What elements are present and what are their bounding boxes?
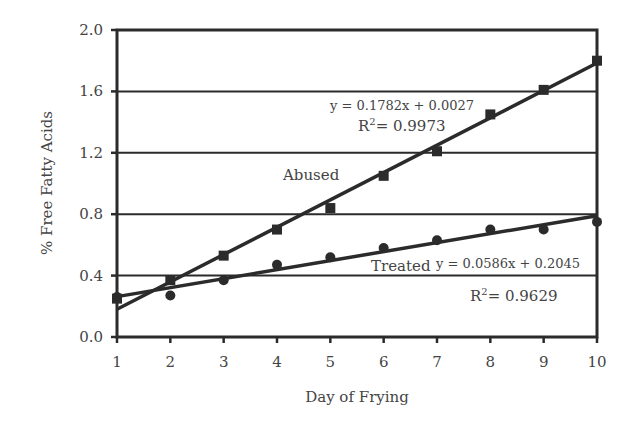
x-tick-label: 1 xyxy=(112,353,122,371)
x-tick-label: 4 xyxy=(272,353,282,371)
abused-equation: y = 0.1782x + 0.0027 xyxy=(329,98,474,113)
abused-square-marker xyxy=(432,146,442,156)
abused-square-marker xyxy=(219,251,229,261)
fatty-acids-chart: 0.00.40.81.21.62.0 12345678910 Day of Fr… xyxy=(0,0,639,422)
y-axis-tick-labels: 0.00.40.81.21.62.0 xyxy=(79,21,103,346)
treated-equation: y = 0.0586x + 0.2045 xyxy=(435,256,580,271)
treated-label: Treated xyxy=(371,257,431,275)
treated-circle-marker xyxy=(272,260,282,270)
y-tick-label: 0.4 xyxy=(79,267,103,285)
x-tick-label: 10 xyxy=(587,353,606,371)
x-tick-label: 3 xyxy=(219,353,229,371)
abused-square-marker xyxy=(485,109,495,119)
treated-circle-marker xyxy=(379,243,389,253)
x-tick-label: 7 xyxy=(432,353,442,371)
abused-r2: R2= 0.9973 xyxy=(358,116,446,135)
x-tick-label: 2 xyxy=(166,353,176,371)
treated-r2: R2= 0.9629 xyxy=(470,286,558,305)
y-axis-title: % Free Fatty Acids xyxy=(38,111,56,255)
abused-square-marker xyxy=(325,203,335,213)
treated-circle-marker xyxy=(325,252,335,262)
abused-square-marker xyxy=(272,225,282,235)
treated-circle-marker xyxy=(219,275,229,285)
x-axis-title: Day of Frying xyxy=(305,388,409,406)
horizontal-gridlines xyxy=(117,91,597,275)
x-tick-label: 8 xyxy=(486,353,496,371)
abused-square-marker xyxy=(379,171,389,181)
treated-circle-marker xyxy=(485,225,495,235)
y-tick-label: 1.2 xyxy=(79,144,103,162)
abused-square-marker xyxy=(539,85,549,95)
abused-label: Abused xyxy=(282,166,340,184)
y-tick-label: 0.0 xyxy=(79,328,103,346)
x-tick-label: 6 xyxy=(379,353,389,371)
abused-square-marker xyxy=(165,275,175,285)
treated-circle-marker xyxy=(432,235,442,245)
x-tick-label: 5 xyxy=(326,353,336,371)
y-tick-label: 1.6 xyxy=(79,82,103,100)
treated-circle-marker xyxy=(165,291,175,301)
y-tick-label: 2.0 xyxy=(79,21,103,39)
y-tick-label: 0.8 xyxy=(79,205,103,223)
x-axis-tick-labels: 12345678910 xyxy=(112,353,606,371)
x-tick-label: 9 xyxy=(539,353,549,371)
treated-circle-marker xyxy=(539,225,549,235)
